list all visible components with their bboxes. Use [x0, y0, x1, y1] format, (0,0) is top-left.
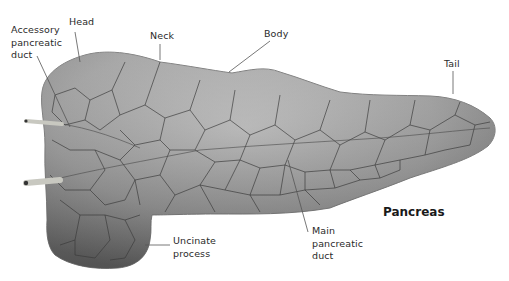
label-tail: Tail: [444, 58, 460, 71]
label-uncinate-process: Uncinate process: [173, 235, 216, 260]
label-accessory-duct: Accessory pancreatic duct: [11, 24, 62, 62]
leader-body: [229, 41, 270, 72]
diagram-title: Pancreas: [383, 205, 445, 219]
label-body: Body: [264, 28, 288, 41]
label-main-duct: Main pancreatic duct: [312, 225, 363, 263]
label-neck: Neck: [150, 30, 174, 43]
pancreas-illustration: [0, 0, 509, 281]
label-head: Head: [69, 16, 94, 29]
